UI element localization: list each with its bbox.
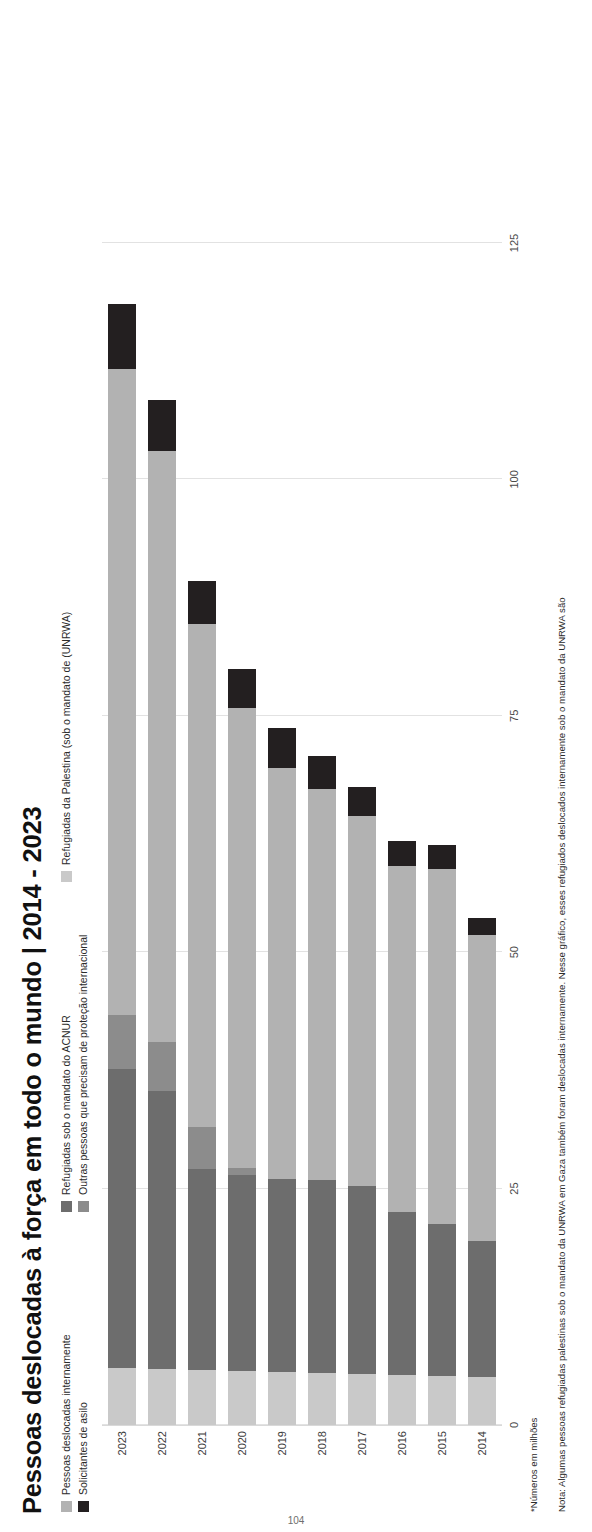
bar-segment[interactable] bbox=[228, 1168, 256, 1176]
tick-label-125: 125 bbox=[508, 234, 520, 252]
bar-2022[interactable] bbox=[148, 400, 176, 1425]
bar-segment[interactable] bbox=[268, 728, 296, 768]
bar-segment[interactable] bbox=[188, 624, 216, 1127]
bar-segment[interactable] bbox=[348, 1186, 376, 1374]
bar-segment[interactable] bbox=[228, 708, 256, 1168]
bar-segment[interactable] bbox=[468, 935, 496, 1240]
tick-label-75: 75 bbox=[508, 710, 520, 722]
bar-segment[interactable] bbox=[108, 369, 136, 1015]
bar-segment[interactable] bbox=[348, 787, 376, 816]
legend-label-asylum: Solicitantes de asilo bbox=[77, 1402, 89, 1495]
legend-item-other-protection[interactable]: Outras pessoas que precisam de proteção … bbox=[77, 882, 89, 1212]
bar-2014[interactable] bbox=[468, 918, 496, 1425]
chart-page: Pessoas deslocadas à força em todo o mun… bbox=[0, 0, 592, 1532]
category-label-2018: 2018 bbox=[308, 1431, 336, 1471]
tick-label-50: 50 bbox=[508, 946, 520, 958]
legend-swatch-unhcr bbox=[61, 1201, 72, 1212]
bar-segment[interactable] bbox=[388, 841, 416, 867]
bar-segment[interactable] bbox=[468, 1377, 496, 1425]
bar-segment[interactable] bbox=[188, 1127, 216, 1169]
page-title: Pessoas deslocadas à força em todo o mun… bbox=[18, 807, 47, 1514]
bar-series-container: 2014201520162017201820192020202120222023 bbox=[102, 243, 502, 1425]
category-label-2021: 2021 bbox=[188, 1431, 216, 1471]
bar-2017[interactable] bbox=[348, 787, 376, 1425]
bar-segment[interactable] bbox=[148, 1091, 176, 1369]
plot-area: 0255075100125 20142015201620172018201920… bbox=[102, 243, 502, 1426]
bar-segment[interactable] bbox=[228, 1371, 256, 1425]
bar-segment[interactable] bbox=[148, 451, 176, 1042]
bar-segment[interactable] bbox=[468, 918, 496, 935]
category-label-2015: 2015 bbox=[428, 1431, 456, 1471]
bar-segment[interactable] bbox=[268, 1372, 296, 1425]
legend-column-1: Pessoas deslocadas internamente Solicita… bbox=[60, 1212, 89, 1512]
bar-segment[interactable] bbox=[428, 845, 456, 869]
bar-2020[interactable] bbox=[228, 670, 256, 1426]
bar-segment[interactable] bbox=[188, 1370, 216, 1425]
bar-segment[interactable] bbox=[108, 304, 136, 369]
legend-label-idp: Pessoas deslocadas internamente bbox=[60, 1334, 72, 1495]
category-label-2014: 2014 bbox=[468, 1431, 496, 1471]
legend-item-asylum[interactable]: Solicitantes de asilo bbox=[77, 1212, 89, 1512]
legend-item-unhcr[interactable]: Refugiadas sob o mandato do ACNUR bbox=[60, 882, 72, 1212]
bar-segment[interactable] bbox=[308, 1373, 336, 1425]
category-label-2023: 2023 bbox=[108, 1431, 136, 1471]
bar-segment[interactable] bbox=[148, 1042, 176, 1091]
bar-2016[interactable] bbox=[388, 841, 416, 1425]
bar-segment[interactable] bbox=[428, 869, 456, 1224]
legend-swatch-other-protection bbox=[78, 1201, 89, 1212]
legend-swatch-asylum bbox=[78, 1501, 89, 1512]
legend-item-idp[interactable]: Pessoas deslocadas internamente bbox=[60, 1212, 72, 1512]
bar-segment[interactable] bbox=[108, 1015, 136, 1070]
bar-segment[interactable] bbox=[188, 581, 216, 624]
bar-segment[interactable] bbox=[348, 816, 376, 1186]
bar-segment[interactable] bbox=[108, 1069, 136, 1368]
bar-segment[interactable] bbox=[268, 1179, 296, 1372]
bar-2019[interactable] bbox=[268, 728, 296, 1425]
legend-label-unrwa: Refugiadas da Palestina (sob o mandato d… bbox=[60, 612, 72, 865]
bar-segment[interactable] bbox=[108, 1368, 136, 1425]
legend-swatch-unrwa bbox=[61, 871, 72, 882]
bar-segment[interactable] bbox=[388, 866, 416, 1212]
bar-segment[interactable] bbox=[428, 1376, 456, 1425]
bar-segment[interactable] bbox=[148, 1369, 176, 1425]
bar-segment[interactable] bbox=[308, 1180, 336, 1373]
legend-item-unrwa[interactable]: Refugiadas da Palestina (sob o mandato d… bbox=[60, 542, 72, 882]
bar-segment[interactable] bbox=[228, 1175, 256, 1371]
bar-segment[interactable] bbox=[188, 1169, 216, 1370]
bar-segment[interactable] bbox=[268, 768, 296, 1179]
category-label-2019: 2019 bbox=[268, 1431, 296, 1471]
legend-swatch-idp bbox=[61, 1501, 72, 1512]
bar-2015[interactable] bbox=[428, 845, 456, 1425]
category-label-2022: 2022 bbox=[148, 1431, 176, 1471]
tick-label-0: 0 bbox=[508, 1422, 520, 1428]
legend-label-other-protection: Outras pessoas que precisam de proteção … bbox=[77, 935, 89, 1195]
tick-label-100: 100 bbox=[508, 470, 520, 488]
bar-segment[interactable] bbox=[308, 789, 336, 1180]
bar-segment[interactable] bbox=[348, 1374, 376, 1425]
legend-column-3: Refugiadas da Palestina (sob o mandato d… bbox=[60, 542, 72, 882]
bar-segment[interactable] bbox=[388, 1212, 416, 1375]
bar-2021[interactable] bbox=[188, 581, 216, 1425]
bar-segment[interactable] bbox=[468, 1241, 496, 1377]
category-label-2020: 2020 bbox=[228, 1431, 256, 1471]
bar-segment[interactable] bbox=[148, 400, 176, 451]
chart-legend: Pessoas deslocadas internamente Solicita… bbox=[60, 512, 89, 1512]
footnote-note: Nota: Algumas pessoas refugiadas palesti… bbox=[556, 597, 567, 1512]
bar-segment[interactable] bbox=[308, 756, 336, 789]
page-number: 104 bbox=[0, 1515, 592, 1526]
bar-segment[interactable] bbox=[428, 1224, 456, 1376]
bar-segment[interactable] bbox=[388, 1375, 416, 1425]
category-label-2017: 2017 bbox=[348, 1431, 376, 1471]
category-label-2016: 2016 bbox=[388, 1431, 416, 1471]
footnote-units: *Números em milhões bbox=[528, 1418, 539, 1512]
bar-2023[interactable] bbox=[108, 304, 136, 1425]
legend-column-2: Refugiadas sob o mandato do ACNUR Outras… bbox=[60, 882, 89, 1212]
legend-label-unhcr: Refugiadas sob o mandato do ACNUR bbox=[60, 1015, 72, 1195]
tick-label-25: 25 bbox=[508, 1182, 520, 1194]
bar-segment[interactable] bbox=[228, 670, 256, 709]
bar-2018[interactable] bbox=[308, 756, 336, 1425]
